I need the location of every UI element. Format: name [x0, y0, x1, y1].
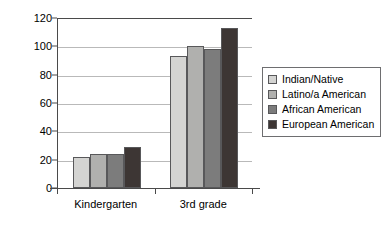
legend-item: European American: [268, 117, 374, 132]
y-axis-tick-label: 80: [18, 69, 52, 80]
bar: [221, 28, 238, 188]
bar: [73, 157, 90, 188]
y-axis-tick-label: 40: [18, 126, 52, 137]
legend-swatch: [268, 105, 277, 114]
bar: [170, 56, 187, 188]
y-axis-tick-mark: [52, 74, 57, 75]
y-axis-tick-mark: [52, 131, 57, 132]
x-axis-tick-mark: [155, 188, 156, 194]
y-axis-tick-mark: [52, 46, 57, 47]
legend-label: Indian/Native: [282, 74, 343, 85]
legend-label: African American: [282, 104, 361, 115]
y-axis-tick-mark: [52, 159, 57, 160]
bar: [90, 154, 107, 188]
y-axis-tick-mark: [52, 18, 57, 19]
bar-group: [170, 19, 238, 188]
legend-swatch: [268, 75, 277, 84]
legend-label: European American: [282, 119, 374, 130]
bar-chart-figure: 020406080100120 Indian/NativeLatino/a Am…: [0, 0, 391, 230]
legend-item: Latino/a American: [268, 87, 374, 102]
bar: [124, 147, 141, 188]
legend-item: Indian/Native: [268, 72, 374, 87]
y-axis: 020406080100120: [10, 0, 52, 230]
bar: [187, 46, 204, 188]
bar: [204, 49, 221, 188]
legend-swatch: [268, 120, 277, 129]
x-axis-tick-label: 3rd grade: [180, 198, 227, 210]
x-axis-tick-mark: [252, 188, 253, 194]
y-axis-tick-label: 0: [18, 183, 52, 194]
y-axis-tick-label: 100: [18, 41, 52, 52]
chart-legend: Indian/NativeLatino/a AmericanAfrican Am…: [262, 67, 381, 137]
legend-item: African American: [268, 102, 374, 117]
x-axis-tick-mark: [57, 188, 58, 194]
y-axis-tick-mark: [52, 103, 57, 104]
plot-area: [57, 18, 252, 188]
legend-swatch: [268, 90, 277, 99]
y-axis-tick-label: 20: [18, 154, 52, 165]
legend-label: Latino/a American: [282, 89, 366, 100]
bar: [107, 154, 124, 188]
bar-group: [73, 19, 141, 188]
x-axis-tick-label: Kindergarten: [74, 198, 137, 210]
y-axis-tick-label: 60: [18, 98, 52, 109]
y-axis-tick-label: 120: [18, 13, 52, 24]
